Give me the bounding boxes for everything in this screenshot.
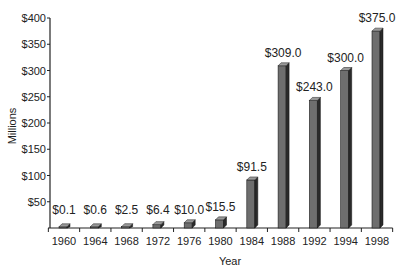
x-axis-title: Year	[219, 255, 242, 267]
data-label: $91.5	[237, 160, 267, 174]
x-tick-label: 1998	[365, 235, 389, 247]
data-label: $15.5	[205, 200, 235, 214]
data-label: $2.5	[115, 203, 139, 217]
x-tick-label: 1964	[83, 235, 107, 247]
data-label: $6.4	[146, 203, 170, 217]
bar: $0.1	[52, 203, 76, 228]
y-axis-title: Millions	[6, 107, 18, 144]
y-tick-label: $150	[22, 143, 46, 155]
bars: $0.1$0.6$2.5$6.4$10.0$15.5$91.5$309.0$24…	[52, 11, 395, 228]
y-tick-label: $250	[22, 91, 46, 103]
y-tick-label: $350	[22, 38, 46, 50]
y-tick-label: $100	[22, 170, 46, 182]
bar: $91.5	[237, 160, 267, 228]
x-tick-label: 1968	[114, 235, 138, 247]
bar: $309.0	[265, 46, 302, 228]
y-tick-label: $400	[22, 12, 46, 24]
x-tick-label: 1972	[146, 235, 170, 247]
x-tick-label: 1988	[271, 235, 295, 247]
bar: $10.0	[174, 203, 204, 228]
bar: $6.4	[146, 203, 170, 228]
data-label: $0.1	[52, 203, 76, 217]
bar: $0.6	[84, 203, 108, 228]
x-tick-label: 1994	[333, 235, 357, 247]
x-tick-label: 1992	[302, 235, 326, 247]
data-label: $10.0	[174, 203, 204, 217]
x-tick-label: 1976	[177, 235, 201, 247]
bar: $243.0	[296, 80, 333, 228]
bar: $300.0	[327, 51, 364, 229]
bar: $15.5	[205, 200, 235, 228]
y-tick-label: $300	[22, 65, 46, 77]
bar-chart: $50$100$150$200$250$300$350$400 19601964…	[0, 0, 410, 272]
x-axis: 1960196419681972197619801984198819921994…	[48, 228, 393, 247]
data-label: $0.6	[84, 203, 108, 217]
data-label: $375.0	[359, 11, 396, 25]
x-tick-label: 1984	[240, 235, 264, 247]
y-axis: $50$100$150$200$250$300$350$400	[22, 12, 50, 228]
y-tick-label: $200	[22, 117, 46, 129]
data-label: $300.0	[327, 51, 364, 65]
data-label: $309.0	[265, 46, 302, 60]
x-tick-label: 1980	[208, 235, 232, 247]
y-tick-label: $50	[28, 196, 46, 208]
bar: $2.5	[115, 203, 139, 228]
data-label: $243.0	[296, 80, 333, 94]
x-tick-label: 1960	[52, 235, 76, 247]
bar: $375.0	[359, 11, 396, 228]
